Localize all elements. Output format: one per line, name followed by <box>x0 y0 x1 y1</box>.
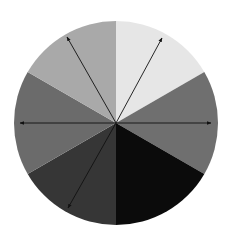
sector-wheel-diagram <box>0 0 231 236</box>
